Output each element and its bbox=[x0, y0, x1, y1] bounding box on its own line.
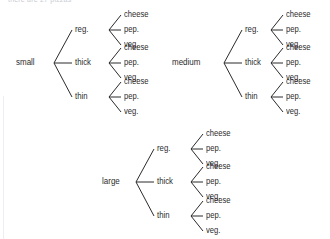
tree-small-thin-topping-veg: veg. bbox=[124, 107, 138, 116]
tree-medium-reg-topping-pep: pep. bbox=[286, 25, 301, 34]
tree-small-thin-topping-cheese: cheese bbox=[124, 77, 149, 86]
tree-medium-root-label: medium bbox=[172, 58, 200, 67]
tree-large-thin-topping-veg: veg. bbox=[206, 226, 220, 235]
tree-small-thin-topping-pep: pep. bbox=[124, 92, 139, 101]
tree-large-thick-topping-cheese: cheese bbox=[206, 162, 231, 171]
tree-small-thick-topping-pep: pep. bbox=[124, 58, 139, 67]
tree-large-root-label: large bbox=[102, 177, 120, 186]
diagram-canvas: there are 27 pizzas small reg. thick thi… bbox=[0, 0, 330, 239]
tree-medium-crust-reg: reg. bbox=[245, 25, 258, 34]
tree-large-thick-topping-pep: pep. bbox=[206, 177, 221, 186]
tree-medium-thin-topping-veg: veg. bbox=[286, 107, 300, 116]
tree-small-reg-topping-cheese: cheese bbox=[124, 10, 149, 19]
tree-large-reg-topping-cheese: cheese bbox=[206, 129, 231, 138]
tree-small-thick-topping-cheese: cheese bbox=[124, 43, 149, 52]
tree-large-crust-thick: thick bbox=[157, 177, 173, 186]
tree-small-crust-thin: thin bbox=[75, 92, 88, 101]
tree-medium-thick-topping-cheese: cheese bbox=[286, 43, 311, 52]
tree-large-thin-topping-pep: pep. bbox=[206, 211, 221, 220]
tree-large: large reg. thick thin cheese pep. veg. c… bbox=[98, 127, 268, 231]
tree-medium-thick-topping-pep: pep. bbox=[286, 58, 301, 67]
page-edge-line bbox=[3, 96, 4, 239]
tree-medium-reg-topping-cheese: cheese bbox=[286, 10, 311, 19]
tree-medium: medium reg. thick thin cheese pep. veg. … bbox=[170, 8, 330, 112]
tree-medium-crust-thin: thin bbox=[245, 92, 258, 101]
tree-large-reg-topping-pep: pep. bbox=[206, 144, 221, 153]
tree-small-reg-topping-pep: pep. bbox=[124, 25, 139, 34]
tree-small-crust-reg: reg. bbox=[75, 25, 88, 34]
tree-medium-crust-thick: thick bbox=[245, 58, 261, 67]
tree-large-crust-reg: reg. bbox=[157, 144, 170, 153]
tree-small: small reg. thick thin cheese pep. veg. c… bbox=[8, 8, 168, 112]
tree-large-links bbox=[98, 127, 268, 231]
tree-medium-thin-topping-pep: pep. bbox=[286, 92, 301, 101]
tree-medium-thin-topping-cheese: cheese bbox=[286, 77, 311, 86]
tree-large-thin-topping-cheese: cheese bbox=[206, 196, 231, 205]
tree-small-crust-thick: thick bbox=[75, 58, 91, 67]
cut-off-title-text: there are 27 pizzas bbox=[8, 0, 71, 3]
tree-large-crust-thin: thin bbox=[157, 211, 170, 220]
tree-small-root-label: small bbox=[16, 58, 35, 67]
